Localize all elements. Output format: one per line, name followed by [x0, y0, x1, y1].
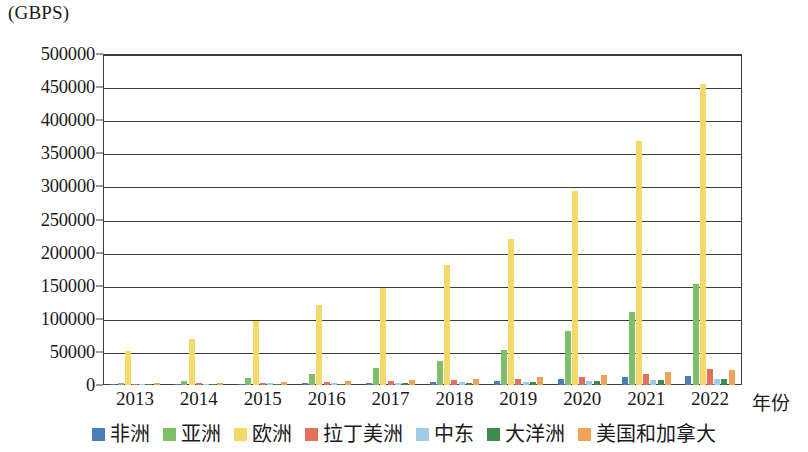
- x-tick-label: 2020: [563, 388, 601, 410]
- legend-swatch-icon: [92, 428, 105, 441]
- x-tick-label: 2021: [627, 388, 665, 410]
- y-tick-label: 350000: [41, 143, 95, 164]
- legend-swatch-icon: [578, 428, 591, 441]
- y-tick-mark: [96, 120, 103, 121]
- y-tick-mark: [96, 385, 103, 386]
- legend-item[interactable]: 欧洲: [234, 424, 292, 444]
- gridline: [104, 55, 741, 56]
- gridlines: [104, 55, 741, 384]
- legend-item[interactable]: 拉丁美洲: [305, 424, 403, 444]
- y-tick-label: 250000: [41, 209, 95, 230]
- y-tick-mark: [96, 87, 103, 88]
- y-tick-mark: [96, 285, 103, 286]
- legend-label: 欧洲: [252, 424, 292, 444]
- legend-label: 拉丁美洲: [323, 424, 403, 444]
- gridline: [104, 121, 741, 122]
- y-tick-label: 0: [86, 375, 95, 396]
- legend-swatch-icon: [163, 428, 176, 441]
- legend-label: 美国和加拿大: [596, 424, 716, 444]
- legend-label: 中东: [434, 424, 474, 444]
- x-tick-label: 2014: [180, 388, 218, 410]
- legend-label: 非洲: [110, 424, 150, 444]
- gridline: [104, 88, 741, 89]
- plot-area: [103, 54, 742, 385]
- y-tick-mark: [96, 54, 103, 55]
- x-tick-label: 2015: [244, 388, 282, 410]
- legend-swatch-icon: [305, 428, 318, 441]
- x-tick-label: 2018: [435, 388, 473, 410]
- legend-item[interactable]: 美国和加拿大: [578, 424, 716, 444]
- gridline: [104, 254, 741, 255]
- gridline: [104, 320, 741, 321]
- y-tick-mark: [96, 219, 103, 220]
- y-axis: 0500001000001500002000002500003000003500…: [0, 0, 103, 452]
- y-tick-label: 500000: [41, 44, 95, 65]
- y-tick-mark: [96, 153, 103, 154]
- legend-swatch-icon: [487, 428, 500, 441]
- x-axis: 2013201420152016201720182019202020212022: [103, 388, 742, 418]
- x-axis-title: 年份: [752, 388, 790, 415]
- y-tick-mark: [96, 252, 103, 253]
- y-tick-mark: [96, 186, 103, 187]
- x-tick-label: 2017: [372, 388, 410, 410]
- gridline: [104, 187, 741, 188]
- x-tick-label: 2016: [308, 388, 346, 410]
- gridline: [104, 287, 741, 288]
- legend-item[interactable]: 亚洲: [163, 424, 221, 444]
- y-tick-label: 450000: [41, 77, 95, 98]
- x-tick-label: 2022: [691, 388, 729, 410]
- legend-item[interactable]: 中东: [416, 424, 474, 444]
- x-tick-label: 2013: [116, 388, 154, 410]
- y-tick-mark: [96, 351, 103, 352]
- legend-label: 亚洲: [181, 424, 221, 444]
- y-tick-mark: [96, 318, 103, 319]
- y-tick-label: 50000: [50, 341, 95, 362]
- chart-container: (GBPS) 050000100000150000200000250000300…: [0, 0, 808, 452]
- y-tick-label: 200000: [41, 242, 95, 263]
- gridline: [104, 221, 741, 222]
- gridline: [104, 154, 741, 155]
- gridline: [104, 353, 741, 354]
- legend-item[interactable]: 非洲: [92, 424, 150, 444]
- legend-label: 大洋洲: [505, 424, 565, 444]
- legend-swatch-icon: [416, 428, 429, 441]
- y-tick-label: 400000: [41, 110, 95, 131]
- x-tick-label: 2019: [499, 388, 537, 410]
- y-tick-label: 100000: [41, 308, 95, 329]
- legend-swatch-icon: [234, 428, 247, 441]
- y-tick-label: 300000: [41, 176, 95, 197]
- legend-item[interactable]: 大洋洲: [487, 424, 565, 444]
- y-tick-label: 150000: [41, 275, 95, 296]
- legend: 非洲亚洲欧洲拉丁美洲中东大洋洲美国和加拿大: [0, 424, 808, 444]
